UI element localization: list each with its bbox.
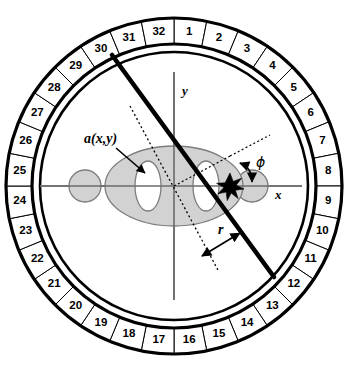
detector-segment-label-23: 23 [19,224,32,236]
detector-segment-label-25: 25 [13,164,26,176]
detector-segment-label-16: 16 [183,333,196,345]
detector-segment-label-8: 8 [325,164,332,176]
detector-segment-label-13: 13 [266,299,279,311]
detector-segment-label-31: 31 [123,31,136,43]
detector-segment-label-19: 19 [95,316,108,328]
detector-segment-label-15: 15 [213,327,226,339]
detector-segment-label-32: 32 [152,25,165,37]
detector-segment-label-24: 24 [13,194,26,206]
detector-segment-label-3: 3 [244,42,250,54]
detector-segment-label-12: 12 [287,277,300,289]
detector-segment-label-28: 28 [48,81,61,93]
detector-segment-label-17: 17 [152,333,165,345]
detector-segment-label-2: 2 [216,31,222,43]
detector-segment-label-14: 14 [241,316,254,328]
detector-segment-label-22: 22 [31,252,44,264]
detector-segment-label-26: 26 [19,134,32,146]
detector-segment-label-9: 9 [325,194,331,206]
detector-segment-label-6: 6 [307,106,313,118]
y-axis-label: y [180,83,188,98]
detector-segment-label-21: 21 [48,277,61,289]
r-label: r [218,222,224,237]
detector-segment-label-30: 30 [95,42,108,54]
phi-label: ϕ [256,154,265,170]
attenuation-label: a(x,y) [84,131,117,147]
detector-segment-label-20: 20 [69,299,82,311]
detector-segment-label-11: 11 [305,252,318,264]
detector-segment-label-1: 1 [186,25,193,37]
detector-segment-label-18: 18 [123,327,136,339]
tomography-geometry-figure: 1234567891011121314151617181920212223242… [0,0,348,371]
detector-segment-label-27: 27 [31,106,44,118]
x-axis-label: x [274,187,282,202]
phi-reference-ray [230,135,270,156]
detector-segment-label-29: 29 [69,59,82,71]
diagram-canvas: 1234567891011121314151617181920212223242… [0,0,348,371]
detector-segment-label-4: 4 [269,59,276,71]
detector-segment-label-10: 10 [316,224,329,236]
detector-segment-label-7: 7 [319,134,325,146]
detector-segment-label-5: 5 [291,81,298,93]
